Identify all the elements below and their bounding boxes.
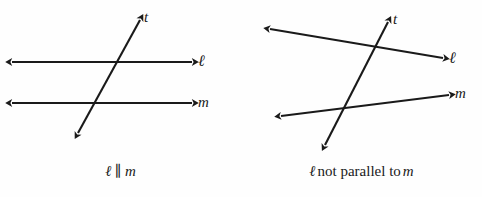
caption-symbol-m: m <box>125 163 136 179</box>
line-ell <box>270 29 443 58</box>
label-line-m: m <box>455 86 466 101</box>
caption-relation-text: not parallel to <box>316 163 403 179</box>
transversal-line-t <box>78 20 140 133</box>
caption-parallel-symbol: ∥ <box>111 163 124 179</box>
caption-symbol-m: m <box>403 163 414 179</box>
caption-not-parallel: ℓnot parallel tom <box>241 164 482 179</box>
caption-parallel: ℓ∥m <box>0 164 241 179</box>
caption-symbol-ell: ℓ <box>309 163 315 179</box>
line-m <box>281 95 449 116</box>
label-line-m: m <box>198 95 209 110</box>
geometry-figure: t ℓ m ℓ∥m t ℓ m <box>0 0 482 197</box>
label-transversal-t: t <box>393 12 397 27</box>
label-transversal-t: t <box>144 10 148 25</box>
label-line-ell: ℓ <box>198 53 205 69</box>
label-line-ell: ℓ <box>449 50 456 66</box>
panel-non-parallel-lines: t ℓ m ℓnot parallel tom <box>241 0 482 197</box>
panel-parallel-lines: t ℓ m ℓ∥m <box>0 0 241 197</box>
